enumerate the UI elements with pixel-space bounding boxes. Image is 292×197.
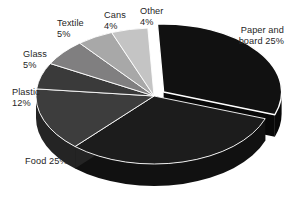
pie-label-glass-line2: 5% — [23, 60, 63, 71]
pie-label-textile-line2: 5% — [57, 29, 101, 40]
pie-label-plastic-line1: Plastic — [12, 87, 56, 98]
pie-label-paper-and-board-line2: board 25% — [206, 36, 284, 47]
pie-label-plastic: Plastic 12% — [12, 87, 56, 108]
pie-label-other-line2: 4% — [140, 17, 180, 28]
pie-chart: Paper and board 25% Food 25% Plastic 12%… — [0, 0, 292, 197]
pie-label-plastic-line2: 12% — [12, 98, 56, 109]
pie-label-glass-line1: Glass — [23, 49, 63, 60]
pie-label-other-line1: Other — [140, 6, 180, 17]
pie-label-cans: Cans 4% — [104, 10, 140, 31]
pie-label-paper-and-board: Paper and board 25% — [206, 25, 284, 46]
pie-label-food-line1: Food 25% — [25, 156, 101, 167]
pie-label-paper-and-board-line1: Paper and — [206, 25, 284, 36]
pie-label-glass: Glass 5% — [23, 49, 63, 70]
pie-label-cans-line1: Cans — [104, 10, 140, 21]
pie-label-food: Food 25% — [25, 156, 101, 167]
pie-label-textile-line1: Textile — [57, 18, 101, 29]
pie-label-cans-line2: 4% — [104, 21, 140, 32]
pie-label-other: Other 4% — [140, 6, 180, 27]
pie-label-textile: Textile 5% — [57, 18, 101, 39]
